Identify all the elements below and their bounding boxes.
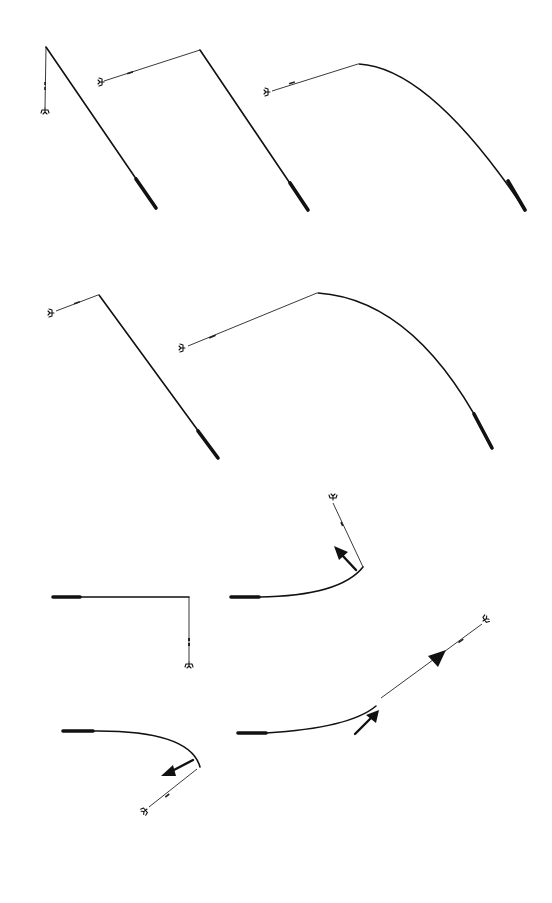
rod-handle <box>290 183 308 210</box>
fly-icon <box>48 309 54 317</box>
figure-6 <box>53 597 193 668</box>
rod-handle <box>198 431 218 458</box>
fly-icon <box>481 614 491 624</box>
figure-7 <box>231 494 363 597</box>
fly-icon <box>98 78 104 86</box>
fly-line <box>272 64 358 91</box>
casting-diagram <box>0 0 552 903</box>
figure-4 <box>48 295 218 458</box>
fly-icon <box>329 494 337 500</box>
fly-line <box>188 293 317 346</box>
rod <box>259 567 363 597</box>
fly-icon <box>179 344 185 352</box>
fly-icon <box>140 806 150 816</box>
motion-arrow-icon <box>161 760 193 776</box>
rod-handle <box>508 181 525 210</box>
rod <box>359 64 525 210</box>
figure-3 <box>264 64 525 210</box>
figure-9 <box>238 614 490 734</box>
fly-line <box>45 47 46 108</box>
fly-line <box>104 50 200 81</box>
fly-icon <box>264 88 270 96</box>
figure-1 <box>41 47 156 208</box>
fly-line <box>333 503 363 567</box>
motion-arrow-icon <box>355 710 379 734</box>
figure-2 <box>98 50 308 210</box>
fly-icon <box>41 108 49 114</box>
triangle-direction-icon <box>428 650 446 667</box>
rod <box>318 293 492 448</box>
figure-8 <box>63 731 200 816</box>
fly-icon <box>185 662 193 668</box>
rod <box>93 731 200 767</box>
rod-handle <box>474 414 492 448</box>
motion-arrow-icon <box>334 546 356 570</box>
rod-handle <box>136 179 156 208</box>
figure-5 <box>179 293 492 448</box>
fly-line <box>381 624 482 698</box>
